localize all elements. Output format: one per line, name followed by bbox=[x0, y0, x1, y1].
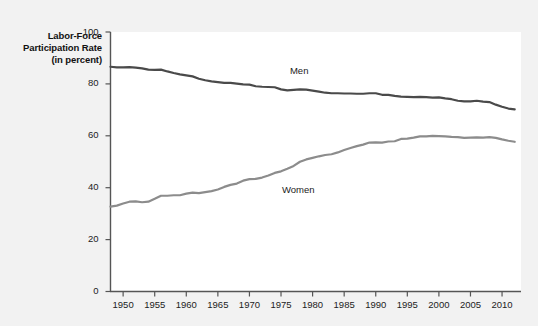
men-series-label: Men bbox=[290, 65, 308, 76]
series-line-women bbox=[111, 136, 515, 207]
y-tick-label: 100 bbox=[69, 27, 99, 37]
y-tick-label: 80 bbox=[69, 78, 99, 88]
y-tick-label: 0 bbox=[69, 286, 99, 296]
y-axis-ticks bbox=[106, 32, 111, 292]
women-series-label: Women bbox=[282, 184, 315, 195]
x-axis-ticks bbox=[123, 292, 502, 297]
series-line-men bbox=[111, 67, 515, 110]
y-tick-label: 20 bbox=[69, 234, 99, 244]
y-tick-label: 40 bbox=[69, 182, 99, 192]
chart-canvas bbox=[0, 0, 538, 326]
y-tick-label: 60 bbox=[69, 130, 99, 140]
x-tick-label: 2010 bbox=[482, 300, 522, 310]
chart-figure: Labor-Force Participation Rate (in perce… bbox=[0, 0, 538, 326]
axis-lines bbox=[110, 32, 521, 292]
